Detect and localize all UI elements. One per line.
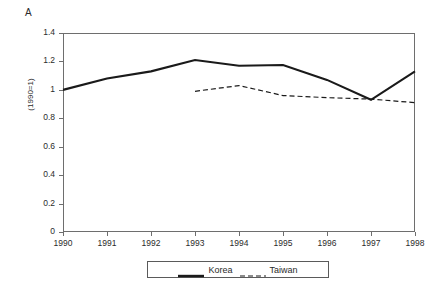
x-axis-tick-mark (283, 232, 284, 236)
legend-swatch-dashed (240, 266, 266, 274)
x-axis-tick-label: 1998 (397, 238, 433, 248)
x-axis-tick-label: 1994 (221, 238, 257, 248)
chart-legend: KoreaTaiwan (147, 261, 329, 278)
x-axis-tick-label: 1992 (133, 238, 169, 248)
legend-label: Taiwan (270, 265, 298, 275)
y-axis-tick-label: 1 (50, 84, 55, 94)
x-axis-tick-label: 1995 (265, 238, 301, 248)
y-axis-tick-label: 1.4 (43, 27, 55, 37)
x-axis-tick-mark (415, 232, 416, 236)
x-axis-tick-mark (327, 232, 328, 236)
chart-figure: A (1990=1) 00.20.40.60.811.21.4 19901991… (0, 0, 437, 295)
y-axis-tick-label: 0 (50, 226, 55, 236)
x-axis-tick-label: 1993 (177, 238, 213, 248)
plot-frame (63, 33, 415, 232)
y-axis-tick-label: 0.8 (43, 112, 55, 122)
y-axis-title: (1990=1) (26, 45, 35, 145)
y-axis-tick-label: 0.4 (43, 169, 55, 179)
legend-label: Korea (208, 265, 232, 275)
x-axis-tick-label: 1997 (353, 238, 389, 248)
y-axis-tick-label: 0.6 (43, 141, 55, 151)
x-axis-tick-mark (371, 232, 372, 236)
x-axis-tick-label: 1991 (89, 238, 125, 248)
x-axis-tick-mark (239, 232, 240, 236)
x-axis-tick-mark (151, 232, 152, 236)
legend-entry-korea: Korea (178, 265, 232, 275)
y-axis-tick-label: 0.2 (43, 198, 55, 208)
x-axis-tick-mark (107, 232, 108, 236)
x-axis-tick-mark (63, 232, 64, 236)
x-axis-tick-label: 1996 (309, 238, 345, 248)
legend-entry-taiwan: Taiwan (240, 265, 298, 275)
legend-swatch-solid (178, 266, 204, 274)
x-axis-tick-label: 1990 (45, 238, 81, 248)
x-axis-tick-mark (195, 232, 196, 236)
panel-label: A (25, 7, 32, 18)
y-axis-tick-label: 1.2 (43, 55, 55, 65)
